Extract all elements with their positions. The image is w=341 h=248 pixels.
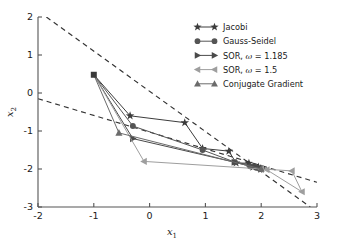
y-tick-label: -3 — [24, 201, 33, 212]
legend-entry-conjugate-gradient[interactable]: Conjugate Gradient — [194, 79, 304, 89]
x-axis-title: x1 — [167, 226, 177, 240]
x-tick-label: 0 — [147, 210, 153, 221]
data-point-marker — [225, 147, 234, 155]
svg-text:x1: x1 — [167, 226, 177, 240]
data-point-marker — [298, 188, 305, 195]
data-point-marker — [130, 123, 136, 129]
x-tick-label: -1 — [89, 210, 98, 221]
x-tick-label: 1 — [202, 210, 208, 221]
y-axis-title: x2 — [4, 107, 18, 117]
circle-icon — [212, 38, 218, 44]
data-point-marker — [115, 129, 122, 136]
y-axis-title-sub: 2 — [10, 107, 18, 111]
series-line — [94, 75, 302, 192]
y-tick-label: 2 — [27, 11, 33, 22]
legend-entry-jacobi[interactable]: Jacobi — [193, 22, 247, 32]
circle-icon — [195, 38, 201, 44]
legend-label: SOR, ω = 1.5 — [223, 65, 277, 75]
y-tick-label: 1 — [27, 49, 33, 60]
series-group — [91, 72, 305, 196]
chart-figure: -2-10123 -3-2-1012 x1 x2 JacobiGauss-Sei… — [0, 0, 341, 248]
star-icon — [193, 23, 201, 31]
x-axis-title-sub: 1 — [173, 232, 177, 240]
y-tick-label: -1 — [24, 125, 33, 136]
legend-entry-sor[interactable]: SOR, ω = 1.185 — [195, 51, 288, 61]
triangle-left-icon — [211, 66, 217, 73]
x-axis-ticks: -2-10123 — [33, 203, 320, 221]
y-tick-label: 0 — [27, 87, 33, 98]
plot-canvas: -2-10123 -3-2-1012 x1 x2 JacobiGauss-Sei… — [0, 0, 341, 248]
triangle-right-icon — [212, 52, 218, 59]
y-tick-label: -2 — [24, 163, 33, 174]
legend-entry-sor[interactable]: SOR, ω = 1.5 — [194, 65, 278, 75]
data-point-marker — [200, 147, 206, 153]
start-point-marker — [91, 72, 97, 78]
legend-entry-gauss-seidel[interactable]: Gauss-Seidel — [195, 36, 276, 46]
chart-legend: JacobiGauss-SeidelSOR, ω = 1.185SOR, ω =… — [193, 22, 304, 89]
legend-label: SOR, ω = 1.185 — [223, 51, 288, 61]
x-tick-label: 2 — [258, 210, 264, 221]
svg-text:x2: x2 — [4, 107, 18, 117]
legend-label: Jacobi — [222, 22, 247, 32]
triangle-left-icon — [194, 66, 200, 73]
y-axis-ticks: -3-2-1012 — [24, 11, 42, 212]
triangle-right-icon — [195, 52, 201, 59]
x-tick-label: 3 — [314, 210, 320, 221]
legend-label: Gauss-Seidel — [223, 36, 276, 46]
star-icon — [210, 23, 218, 31]
data-point-marker — [140, 158, 147, 165]
legend-label: Conjugate Gradient — [223, 79, 304, 89]
x-tick-label: -2 — [33, 210, 42, 221]
